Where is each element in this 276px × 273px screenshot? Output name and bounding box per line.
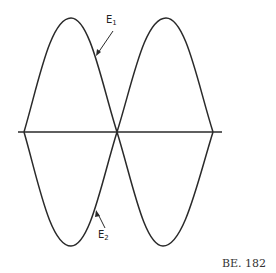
e2-label: E2 — [98, 229, 109, 240]
e1-arrow — [98, 31, 113, 53]
e2-arrowhead-icon — [95, 210, 100, 217]
e1-label: E1 — [106, 14, 117, 25]
figure-id: BE. 182 — [222, 257, 266, 270]
curve-e1 — [24, 18, 213, 132]
curve-e2 — [24, 132, 213, 246]
waveform-diagram — [0, 0, 276, 273]
